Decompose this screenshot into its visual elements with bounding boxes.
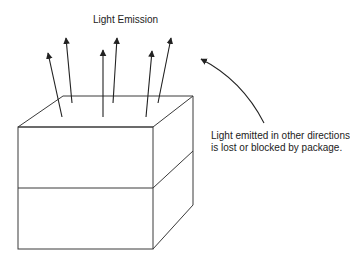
package-bottom-side-edge [153,205,193,249]
light-emission-diagram: Light Emission Light emitted in other di… [0,0,350,265]
emission-arrow-icon [66,38,72,103]
lost-light-note-line1: Light emitted in other directions [211,130,350,141]
package-layer-divider-side [153,151,193,188]
lost-light-curved-arrow-icon [201,59,264,123]
emission-arrow-icon [113,38,117,103]
light-emission-label: Light Emission [93,14,158,25]
package-box [18,96,193,249]
emission-arrow-icon [158,38,171,103]
emission-arrow-icon [146,51,152,117]
emission-arrows [48,38,171,117]
emission-arrow-icon [48,53,62,117]
package-top-face [18,96,193,127]
lost-light-note-line2: is lost or blocked by package. [211,142,342,153]
